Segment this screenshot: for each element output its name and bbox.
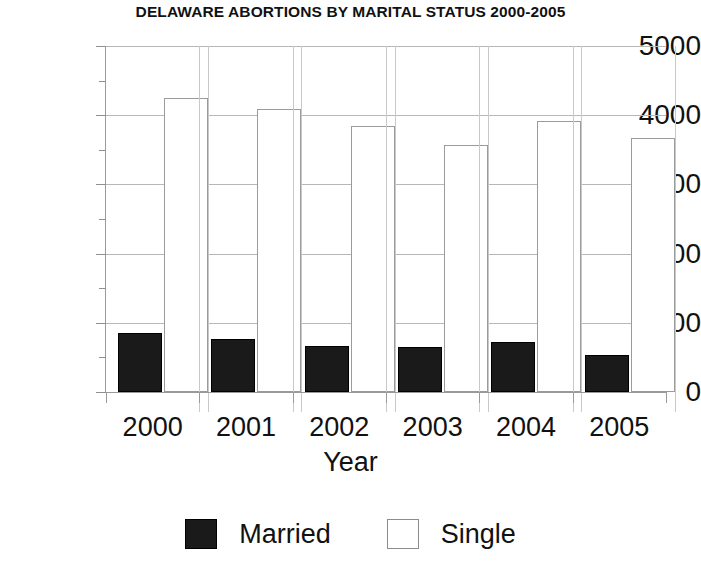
chart-container: DELAWARE ABORTIONS BY MARITAL STATUS 200… [0, 0, 701, 584]
bar-edge-line-2004 [581, 46, 582, 412]
x-axis-title: Year [0, 447, 701, 478]
x-tick-label-2000: 2000 [103, 414, 203, 441]
y-tick-minor-500 [99, 357, 106, 358]
bar-single-2004 [537, 121, 581, 392]
bar-edge-line-2001 [301, 46, 302, 412]
y-tick-major-1000 [96, 323, 106, 324]
category-separator-3 [386, 46, 387, 412]
category-separator-5 [573, 46, 574, 412]
x-tick-label-2005: 2005 [569, 414, 669, 441]
x-tick-origin [106, 392, 107, 403]
bar-single-2003 [444, 145, 488, 392]
bar-single-2001 [257, 109, 301, 392]
x-tick-2002 [386, 392, 387, 403]
legend-item-married[interactable]: Married [185, 519, 331, 549]
bar-married-2003 [398, 347, 442, 392]
bar-edge-line-2000 [208, 46, 209, 412]
bar-married-2002 [305, 346, 349, 392]
y-tick-minor-1500 [99, 288, 106, 289]
x-tick-label-2003: 2003 [383, 414, 483, 441]
bar-married-2001 [211, 339, 255, 392]
y-tick-major-5000 [96, 46, 106, 47]
x-tick-label-2004: 2004 [476, 414, 576, 441]
x-tick-2001 [293, 392, 294, 403]
category-separator-2 [293, 46, 294, 412]
category-separator-4 [479, 46, 480, 412]
legend-label-single: Single [441, 521, 516, 548]
legend-swatch-married-icon [185, 519, 217, 549]
x-tick-2005 [666, 392, 667, 403]
bar-edge-line-2005 [675, 46, 676, 412]
y-tick-major-4000 [96, 115, 106, 116]
y-tick-major-2000 [96, 254, 106, 255]
x-tick-2003 [479, 392, 480, 403]
bar-edge-line-2002 [395, 46, 396, 412]
bar-single-2002 [351, 126, 395, 392]
x-tick-label-2002: 2002 [289, 414, 389, 441]
category-separator-1 [199, 46, 200, 412]
x-tick-2004 [573, 392, 574, 403]
bar-edge-line-2003 [488, 46, 489, 412]
y-tick-major-3000 [96, 184, 106, 185]
chart-legend: Married Single [0, 519, 701, 549]
chart-title: DELAWARE ABORTIONS BY MARITAL STATUS 200… [0, 3, 701, 21]
legend-label-married: Married [239, 521, 331, 548]
y-tick-minor-3500 [99, 150, 106, 151]
bar-married-2005 [585, 355, 629, 392]
bar-single-2000 [164, 98, 208, 392]
legend-item-single[interactable]: Single [387, 519, 516, 549]
legend-swatch-single-icon [387, 519, 419, 549]
y-tick-major-0 [96, 392, 106, 393]
bar-married-2004 [491, 342, 535, 392]
y-tick-minor-4500 [99, 81, 106, 82]
x-tick-label-2001: 2001 [196, 414, 296, 441]
bar-married-2000 [118, 333, 162, 392]
y-tick-minor-2500 [99, 219, 106, 220]
bar-single-2005 [631, 138, 675, 392]
x-tick-2000 [199, 392, 200, 403]
